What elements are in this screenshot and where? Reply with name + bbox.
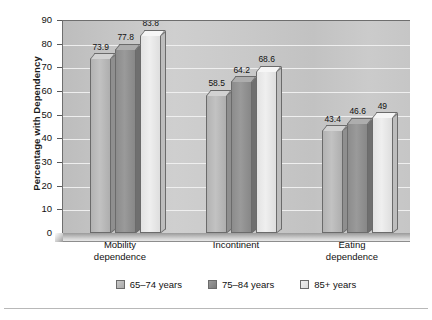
y-tick-label: 30 xyxy=(26,157,52,167)
bar-side-face xyxy=(277,67,282,233)
legend-label: 65–74 years xyxy=(130,279,182,290)
bar-value-label: 46.6 xyxy=(349,107,366,116)
bar-side-face xyxy=(161,31,166,233)
bar-side-face xyxy=(393,113,398,233)
bar-front-face xyxy=(206,95,227,233)
bar-front-face xyxy=(347,123,368,233)
bar-top-face xyxy=(347,118,373,124)
bar: 46.6 xyxy=(347,123,368,233)
category-label-line: dependence xyxy=(62,251,178,263)
bar-value-label: 58.5 xyxy=(208,79,225,88)
category-label-line: dependence xyxy=(294,251,410,263)
bottom-divider xyxy=(4,308,428,309)
chart-legend: 65–74 years75–84 years85+ years xyxy=(62,279,410,290)
y-tick-label: 50 xyxy=(26,110,52,120)
bar-front-face xyxy=(231,81,252,233)
legend-swatch-icon xyxy=(116,280,125,289)
legend-swatch-icon xyxy=(208,280,217,289)
legend-label: 75–84 years xyxy=(222,279,274,290)
category-label-line: Mobility xyxy=(62,239,178,251)
plot-area: 73.977.883.858.564.268.643.446.649 xyxy=(62,20,410,233)
category-label: Eatingdependence xyxy=(294,239,410,262)
legend-item[interactable]: 85+ years xyxy=(300,279,356,290)
bar-front-face xyxy=(115,49,136,233)
legend-label: 85+ years xyxy=(314,279,356,290)
bar-front-face xyxy=(372,117,393,233)
y-tick-label: 0 xyxy=(26,228,52,238)
bar: 49 xyxy=(372,117,393,233)
bar-top-face xyxy=(372,112,398,118)
y-tick-label: 70 xyxy=(26,62,52,72)
y-tick-label: 40 xyxy=(26,133,52,143)
bar-value-label: 64.2 xyxy=(233,66,250,75)
category-label: Incontinent xyxy=(178,239,294,251)
legend-swatch-icon xyxy=(300,280,309,289)
bar: 68.6 xyxy=(256,71,277,233)
bar-side-face xyxy=(343,126,348,233)
bar-side-face xyxy=(227,91,232,233)
bar-side-face xyxy=(252,77,257,233)
y-tick-label: 20 xyxy=(26,181,52,191)
bar: 64.2 xyxy=(231,81,252,233)
y-tick-label: 80 xyxy=(26,39,52,49)
bar-value-label: 77.8 xyxy=(117,33,134,42)
bar-front-face xyxy=(256,71,277,233)
bar-value-label: 49 xyxy=(378,102,387,111)
bar-value-label: 83.8 xyxy=(142,20,159,28)
y-tick-label: 90 xyxy=(26,15,52,25)
y-tick-label: 60 xyxy=(26,86,52,96)
category-label: Mobilitydependence xyxy=(62,239,178,262)
bar-value-label: 43.4 xyxy=(324,115,341,124)
bar: 73.9 xyxy=(90,58,111,233)
bar-front-face xyxy=(140,35,161,233)
bar: 83.8 xyxy=(140,35,161,233)
legend-item[interactable]: 65–74 years xyxy=(116,279,182,290)
bar-top-face xyxy=(206,90,232,96)
bar-top-face xyxy=(140,30,166,36)
category-label-line: Incontinent xyxy=(178,239,294,251)
y-tick-label: 10 xyxy=(26,204,52,214)
bar-value-label: 73.9 xyxy=(92,43,109,52)
bar-top-face xyxy=(115,44,141,50)
bar-side-face xyxy=(136,45,141,233)
bar: 77.8 xyxy=(115,49,136,233)
bar-front-face xyxy=(322,130,343,233)
bar-value-label: 68.6 xyxy=(258,55,275,64)
category-label-line: Eating xyxy=(294,239,410,251)
bar-top-face xyxy=(231,76,257,82)
bar-side-face xyxy=(368,119,373,233)
bar-top-face xyxy=(256,66,282,72)
bar: 58.5 xyxy=(206,95,227,233)
bar-chart-figure: Percentage with Dependency 9080706050403… xyxy=(0,0,432,320)
bar: 43.4 xyxy=(322,130,343,233)
legend-item[interactable]: 75–84 years xyxy=(208,279,274,290)
plot-wrapper: 73.977.883.858.564.268.643.446.649 xyxy=(62,20,410,233)
bar-top-face xyxy=(90,53,116,59)
bar-top-face xyxy=(322,125,348,131)
bar-front-face xyxy=(90,58,111,233)
gridline xyxy=(63,45,410,46)
y-axis-title: Percentage with Dependency xyxy=(31,24,42,224)
bar-side-face xyxy=(111,54,116,233)
